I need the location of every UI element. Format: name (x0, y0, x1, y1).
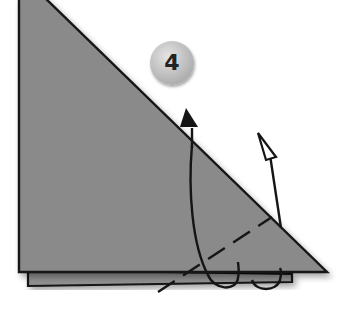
origami-diagram: 4 (0, 0, 349, 314)
step-number: 4 (164, 52, 179, 74)
step-number-badge: 4 (150, 41, 194, 85)
